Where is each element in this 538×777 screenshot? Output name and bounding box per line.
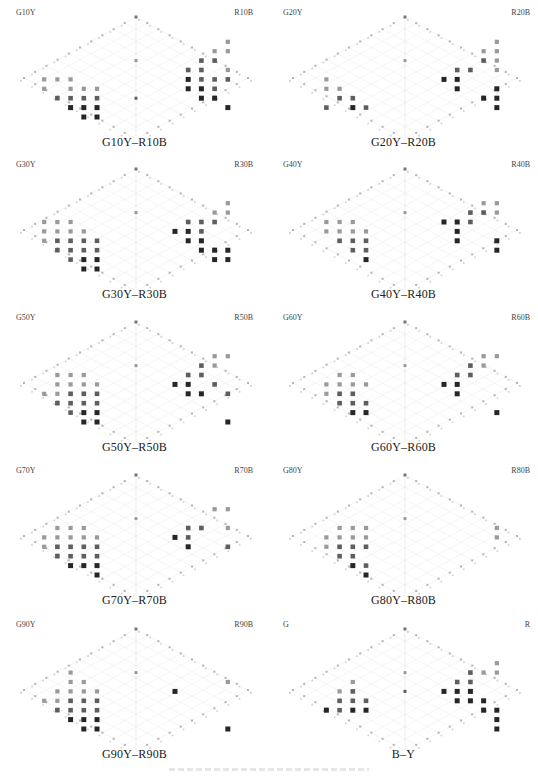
hue-plane-panel-6: G60Y R60B G60Y–R60B (269, 313, 538, 466)
panel-caption: G80Y–R80B (269, 593, 538, 608)
hue-plane-panel-4: G40Y R40B G40Y–R40B (269, 160, 538, 313)
hue-plane-panel-2: G20Y R20B G20Y–R20B (269, 8, 538, 161)
diamond-plot (269, 160, 538, 290)
figure-footnote (0, 768, 538, 774)
panel-caption: G20Y–R20B (269, 135, 538, 150)
hue-plane-panel-8: G80Y R80B G80Y–R80B (269, 466, 538, 619)
hue-plane-panel-7: G70Y R70B G70Y–R70B (0, 466, 269, 619)
diamond-plot (0, 620, 269, 750)
panel-caption: G60Y–R60B (269, 440, 538, 455)
panel-caption: G90Y–R90B (0, 747, 269, 762)
diamond-plot (0, 466, 269, 596)
panel-caption: G40Y–R40B (269, 287, 538, 302)
hue-plane-panel-1: G10Y R10B G10Y–R10B (0, 8, 269, 161)
panel-caption: G10Y–R10B (0, 135, 269, 150)
diamond-plot (0, 313, 269, 443)
hue-plane-panel-9: G90Y R90B G90Y–R90B (0, 620, 269, 773)
diamond-plot (0, 160, 269, 290)
panel-caption: G50Y–R50B (0, 440, 269, 455)
panel-caption: B–Y (269, 747, 538, 762)
diamond-plot (269, 8, 538, 138)
hue-plane-panel-10: G R B–Y (269, 620, 538, 773)
hue-plane-panel-5: G50Y R50B G50Y–R50B (0, 313, 269, 466)
panel-caption: G30Y–R30B (0, 287, 269, 302)
diamond-plot (269, 620, 538, 750)
panel-caption: G70Y–R70B (0, 593, 269, 608)
diamond-plot (269, 313, 538, 443)
hue-plane-panel-3: G30Y R30B G30Y–R30B (0, 160, 269, 313)
diamond-plot (269, 466, 538, 596)
diamond-plot (0, 8, 269, 138)
